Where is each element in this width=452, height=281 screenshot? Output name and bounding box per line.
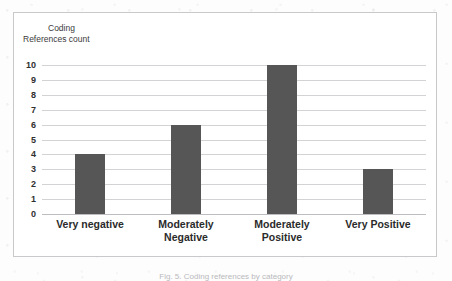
x-axis-label-3: Very Positive (330, 218, 426, 244)
y-axis-title-line-1: Coding (23, 23, 90, 34)
gridline: 0 (42, 214, 426, 215)
y-axis-tick-label: 6 (31, 120, 36, 129)
figure-caption: Fig. 5. Coding references by category (0, 272, 452, 281)
y-axis-tick-label: 8 (31, 90, 36, 99)
x-axis-label-line: Positive (236, 231, 328, 244)
bar-slot (330, 65, 426, 214)
x-axis-label-line: Moderately (140, 218, 232, 231)
bar-slot (42, 65, 138, 214)
x-axis-label-line: Very negative (44, 218, 136, 231)
bar-slot (138, 65, 234, 214)
plot-area: 109876543210 (42, 65, 426, 214)
y-axis-tick-label: 1 (31, 195, 36, 204)
y-axis-tick-label: 4 (31, 150, 36, 159)
y-axis-tick-label: 5 (31, 135, 36, 144)
bar-moderately-negative (171, 125, 201, 214)
bar-very-positive (363, 169, 393, 214)
x-axis-label-line: Moderately (236, 218, 328, 231)
x-axis-label-line: Very Positive (332, 218, 424, 231)
bar-slot (234, 65, 330, 214)
y-axis-tick-label: 10 (26, 61, 36, 70)
y-axis-tick-label: 9 (31, 75, 36, 84)
x-axis-label-0: Very negative (42, 218, 138, 244)
y-axis-tick-label: 0 (31, 210, 36, 219)
x-axis-label-1: ModeratelyNegative (138, 218, 234, 244)
y-axis-title: Coding References count (23, 23, 90, 45)
y-axis-tick-label: 3 (31, 165, 36, 174)
bars-group (42, 65, 426, 214)
bar-moderately-positive (267, 65, 297, 214)
bar-very-negative (75, 154, 105, 214)
chart-frame: Coding References count 109876543210 Ver… (13, 12, 437, 257)
y-axis-title-line-2: References count (23, 34, 90, 45)
x-axis-labels: Very negativeModeratelyNegativeModeratel… (42, 218, 426, 244)
x-axis-label-2: ModeratelyPositive (234, 218, 330, 244)
x-axis-label-line: Negative (140, 231, 232, 244)
y-axis-tick-label: 7 (31, 105, 36, 114)
y-axis-tick-label: 2 (31, 180, 36, 189)
chart-page: Coding References count 109876543210 Ver… (0, 0, 452, 281)
